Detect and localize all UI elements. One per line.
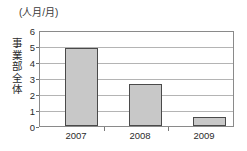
y-tick-label-6: 6 [21,27,35,37]
x-tick-mark [104,127,105,131]
y-tick-label-0: 0 [21,123,35,133]
bar-2009 [193,117,226,126]
y-tick-label-1: 1 [21,107,35,117]
bar-2007 [65,48,98,126]
y-tick-label-5: 5 [21,43,35,53]
x-axis-label-2009: 2009 [182,131,226,141]
bar-2008 [129,84,162,126]
plot-area [39,31,234,127]
x-tick-mark [168,127,169,131]
y-tick-label-3: 3 [21,75,35,85]
chart-unit-title: (人月/月) [19,7,58,19]
x-axis-label-2007: 2007 [54,131,98,141]
y-tick-label-2: 2 [21,91,35,101]
bar-chart: (人月/月) 事 業 部 全 体 6 5 4 3 2 1 0 2007 2008… [0,0,247,151]
x-axis-label-2008: 2008 [118,131,162,141]
y-tick-mark [36,127,39,128]
y-tick-label-4: 4 [21,59,35,69]
